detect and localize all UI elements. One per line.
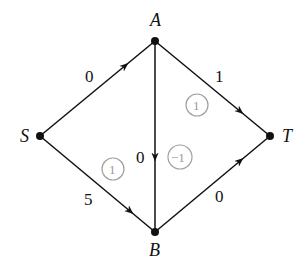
circled-value-upper-right: 1 — [186, 94, 208, 116]
edge-S-A — [40, 41, 155, 136]
graph-canvas: A S T B 0 1 0 5 0 1 1 −1 — [0, 0, 307, 270]
svg-text:1: 1 — [109, 162, 116, 177]
weight-A-B: 0 — [136, 148, 145, 167]
node-label-S: S — [20, 126, 29, 146]
node-B — [151, 228, 159, 236]
node-label-T: T — [282, 126, 294, 146]
circled-value-left: 1 — [102, 158, 124, 180]
weight-B-T: 0 — [215, 187, 224, 206]
svg-text:1: 1 — [193, 98, 200, 113]
graph-diagram: A S T B 0 1 0 5 0 1 1 −1 — [0, 0, 307, 270]
svg-text:−1: −1 — [171, 150, 185, 165]
weight-A-T: 1 — [215, 67, 224, 86]
node-T — [266, 132, 274, 140]
node-label-B: B — [149, 240, 160, 260]
circled-value-right-of-AB: −1 — [168, 145, 192, 169]
edge-A-T — [155, 41, 270, 136]
weight-S-B: 5 — [84, 190, 93, 209]
weight-S-A: 0 — [85, 67, 94, 86]
node-label-A: A — [149, 10, 162, 30]
node-S — [36, 132, 44, 140]
node-A — [151, 37, 159, 45]
